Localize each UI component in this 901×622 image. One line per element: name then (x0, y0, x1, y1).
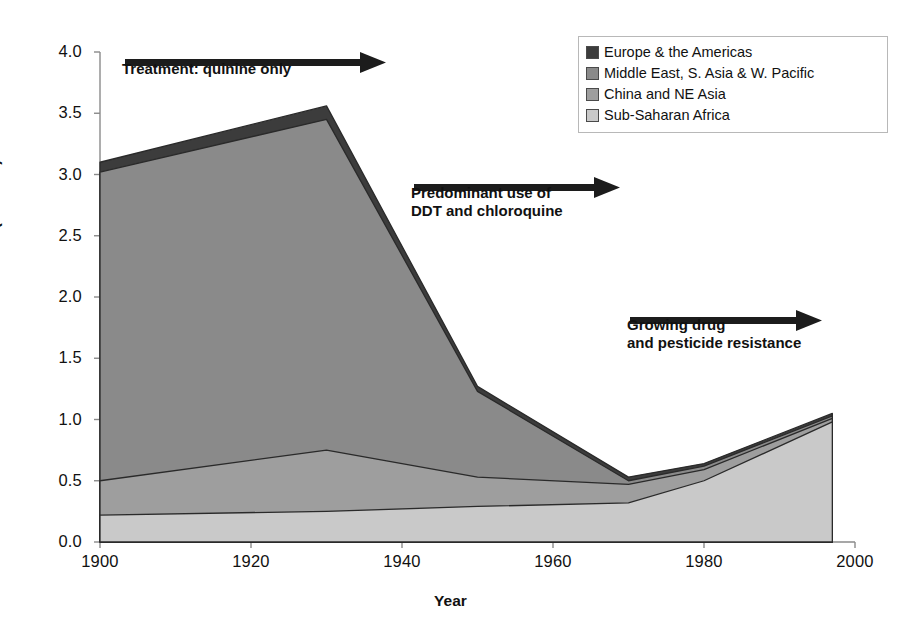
legend-item-3[interactable]: Sub-Saharan Africa (586, 105, 880, 126)
annotation-quinine: Treatment: quinine only (122, 56, 291, 78)
annotation-ddt: Predominant use of DDT and chloroquine (411, 180, 563, 221)
x-tick-label: 1920 (211, 552, 291, 571)
legend-swatch-icon (586, 88, 599, 101)
legend-swatch-icon (586, 46, 599, 59)
legend-item-1[interactable]: Middle East, S. Asia & W. Pacific (586, 63, 880, 84)
y-axis-ticks (94, 52, 100, 542)
legend-swatch-icon (586, 109, 599, 122)
legend-item-2[interactable]: China and NE Asia (586, 84, 880, 105)
y-tick-label: 3.0 (28, 165, 82, 184)
legend-swatch-icon (586, 67, 599, 80)
x-axis-ticks (100, 542, 855, 548)
y-tick-label: 2.0 (28, 287, 82, 306)
annotation-text: Treatment: quinine only (122, 60, 291, 78)
legend: Europe & the Americas Middle East, S. As… (578, 36, 888, 133)
x-tick-label: 1960 (513, 552, 593, 571)
annotation-text: Predominant use of DDT and chloroquine (411, 184, 563, 221)
y-tick-label: 4.0 (28, 42, 82, 61)
legend-item-0[interactable]: Europe & the Americas (586, 42, 880, 63)
legend-label: Sub-Saharan Africa (604, 108, 730, 123)
x-tick-label: 1980 (664, 552, 744, 571)
x-tick-label: 1940 (362, 552, 442, 571)
y-axis-title: Malaria deaths (millions) (0, 100, 3, 400)
y-tick-label: 3.5 (28, 103, 82, 122)
legend-label: Middle East, S. Asia & W. Pacific (604, 66, 814, 81)
y-tick-label: 0.0 (28, 532, 82, 551)
x-tick-label: 2000 (815, 552, 895, 571)
malaria-deaths-area-chart: 4.03.53.02.52.01.51.00.50.0 190019201940… (0, 0, 901, 622)
legend-label: China and NE Asia (604, 87, 726, 102)
x-tick-label: 1900 (60, 552, 140, 571)
legend-label: Europe & the Americas (604, 45, 752, 60)
y-tick-label: 1.0 (28, 410, 82, 429)
y-tick-label: 0.5 (28, 471, 82, 490)
y-tick-label: 2.5 (28, 226, 82, 245)
annotation-resistance: Growing drug and pesticide resistance (627, 312, 801, 353)
annotation-text: Growing drug and pesticide resistance (627, 316, 801, 353)
y-tick-label: 1.5 (28, 348, 82, 367)
x-axis-title: Year (0, 592, 901, 610)
